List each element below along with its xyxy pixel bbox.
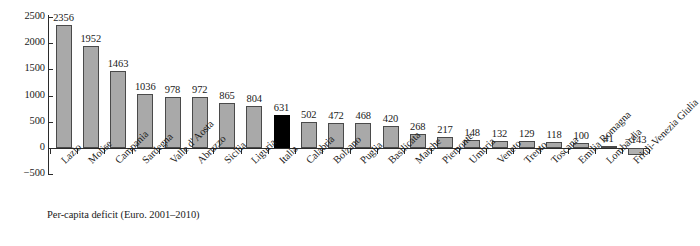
y-axis-tick-mark bbox=[48, 96, 53, 97]
y-axis-tick-label: 2000 bbox=[24, 36, 45, 47]
y-axis-tick-label: −500 bbox=[24, 167, 45, 178]
chart-caption: Per-capita deficit (Euro. 2001–2010) bbox=[47, 209, 200, 221]
y-axis-tick-mark bbox=[48, 122, 53, 123]
x-axis-tick-mark bbox=[50, 149, 51, 154]
y-axis-tick: 1000 bbox=[0, 96, 56, 97]
y-axis-tick: 1500 bbox=[0, 69, 56, 70]
y-axis-tick-label: 500 bbox=[30, 115, 45, 126]
y-axis-tick-label: 0 bbox=[40, 141, 45, 152]
bar-value-label: 1463 bbox=[96, 58, 140, 69]
y-axis-tick-label: 1500 bbox=[24, 62, 45, 73]
bar bbox=[301, 122, 317, 148]
y-axis-tick: 500 bbox=[0, 122, 56, 123]
y-axis-tick-mark bbox=[48, 174, 53, 175]
y-axis-tick: 0 bbox=[0, 148, 56, 149]
bar-value-label: 1952 bbox=[69, 33, 113, 44]
bar-value-label: 2356 bbox=[42, 12, 86, 23]
y-axis-tick-mark bbox=[48, 43, 53, 44]
y-axis-tick-mark bbox=[48, 69, 53, 70]
y-axis-tick: 2000 bbox=[0, 43, 56, 44]
y-axis-tick-label: 1000 bbox=[24, 89, 45, 100]
y-axis-tick: −500 bbox=[0, 174, 56, 175]
